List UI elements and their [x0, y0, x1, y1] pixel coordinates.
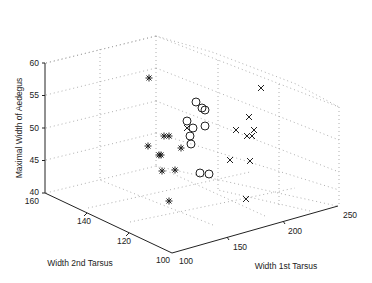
- series-asterisk-markers: [145, 75, 185, 205]
- x-tick-labels: 100 150 200 250: [179, 210, 357, 266]
- z-tick: 45: [30, 155, 40, 165]
- z-tick: 50: [30, 123, 40, 133]
- y-axis-line: [45, 193, 172, 253]
- z-tick: 55: [30, 90, 40, 100]
- y-tick: 140: [77, 216, 91, 226]
- z-tick-labels: 60 55 50 45 40: [30, 58, 40, 197]
- x-tick: 200: [288, 226, 302, 236]
- y-tick: 100: [156, 255, 170, 265]
- x-tick: 150: [233, 242, 247, 252]
- x-tick: 100: [179, 256, 193, 266]
- x-axis-line: [172, 206, 338, 253]
- y-tick: 120: [117, 236, 131, 246]
- x-tick: 250: [343, 210, 357, 220]
- x-axis-label: Width 1st Tarsus: [255, 261, 318, 271]
- scatter3d-chart: 60 55 50 45 40 160 140 120 100 100 150 2…: [0, 0, 372, 283]
- series-circle-markers: [183, 98, 213, 178]
- y-tick: 160: [25, 196, 39, 206]
- y-axis-label: Width 2nd Tarsus: [47, 258, 113, 268]
- series-x-markers: [184, 85, 264, 202]
- y-tick-labels: 160 140 120 100: [25, 196, 171, 265]
- z-tick: 60: [30, 58, 40, 68]
- z-axis-label: Maximal Width of Aedegus: [14, 78, 24, 179]
- grid-lines: [46, 36, 339, 225]
